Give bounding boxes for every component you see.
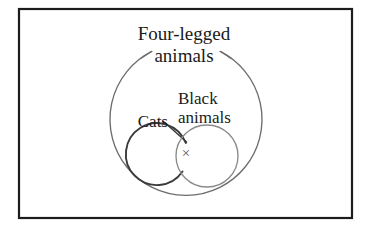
universe-label-line2: animals [0,46,368,65]
intersection-x-mark: × [176,146,196,161]
universe-label-line1: Four-legged [0,24,368,43]
set-label-cats: Cats [108,113,168,130]
figure-root: Four-legged animals Cats Black animals × [0,0,368,235]
set-label-black-animals-line1: Black [178,90,268,107]
set-label-black-animals-line2: animals [178,109,268,126]
